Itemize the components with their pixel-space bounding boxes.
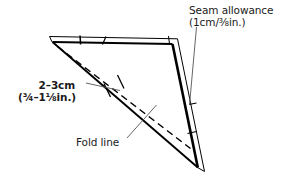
seam-allowance-line1: Seam allowance	[189, 4, 273, 16]
seam-allowance-line2: (1cm/⅜in.)	[189, 16, 273, 28]
seam-allowance-outline	[50, 37, 205, 172]
measure-line2: (¾–1⅛in.)	[18, 91, 76, 103]
measure-line1: 2–3cm	[18, 79, 76, 91]
leader-measure	[86, 83, 120, 91]
leader-seam-allowance	[190, 27, 197, 105]
notch-marks	[80, 36, 197, 134]
label-seam-allowance: Seam allowance (1cm/⅜in.)	[189, 4, 273, 28]
pattern-outline	[53, 42, 198, 168]
sewing-pattern-figure: Seam allowance (1cm/⅜in.) 2–3cm (¾–1⅛in.…	[0, 0, 289, 178]
seam-outer-right-line	[178, 39, 205, 172]
notch-top-left	[80, 36, 81, 45]
label-fold-line: Fold line	[76, 136, 119, 148]
label-measure: 2–3cm (¾–1⅛in.)	[18, 79, 76, 103]
notch-top-right	[169, 36, 170, 44]
top-edge-line	[53, 42, 173, 44]
notch-fold-upper	[118, 75, 125, 89]
seam-outer-left-closure	[50, 37, 53, 42]
fold-line-dashed	[58, 47, 191, 149]
seam-outer-top-line	[50, 37, 178, 39]
